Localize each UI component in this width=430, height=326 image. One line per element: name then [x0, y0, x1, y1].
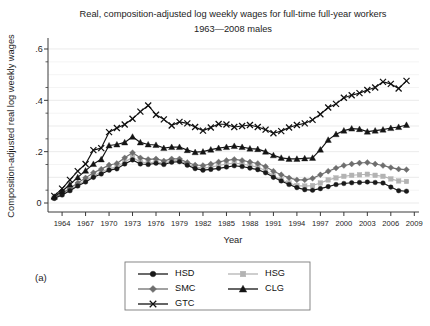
y-tick-label: 0: [36, 198, 41, 208]
data-point-marker-square: [357, 172, 362, 177]
data-point-marker-circle: [342, 181, 347, 186]
data-point-marker-circle: [185, 163, 190, 168]
data-point-marker-diamond: [278, 172, 284, 178]
data-point-marker-x: [325, 105, 331, 111]
data-point-marker-diamond: [325, 168, 331, 174]
data-point-marker-circle: [271, 175, 276, 180]
data-point-marker-x: [169, 122, 175, 128]
data-point-marker-diamond: [404, 167, 410, 173]
data-point-marker-circle: [326, 184, 331, 189]
data-point-marker-circle: [169, 160, 174, 165]
x-tick-label: 2003: [359, 219, 376, 228]
figure-panel: Real, composition-adjusted log weekly wa…: [0, 0, 430, 326]
x-tick-label: 1988: [241, 219, 258, 228]
data-point-marker-x: [396, 86, 402, 92]
data-point-marker-circle: [248, 166, 253, 171]
x-tick-label: 1997: [312, 219, 329, 228]
data-point-marker-square: [326, 178, 331, 183]
data-point-marker-circle: [240, 164, 245, 169]
data-point-marker-diamond: [349, 161, 355, 167]
x-tick-label: 1964: [54, 219, 71, 228]
data-point-marker-circle: [146, 162, 151, 167]
data-point-marker-circle: [295, 185, 300, 190]
x-tick-label: 1985: [218, 219, 235, 228]
data-point-marker-square: [373, 173, 378, 178]
data-point-marker-circle: [396, 188, 401, 193]
data-point-marker-square: [365, 172, 370, 177]
data-point-marker-circle: [177, 159, 182, 164]
data-point-marker-diamond: [286, 175, 292, 181]
data-point-marker-circle: [99, 172, 104, 177]
x-tick-label: 2006: [382, 219, 399, 228]
y-tick-label: .6: [35, 44, 43, 54]
data-point-marker-diamond: [357, 160, 363, 166]
data-point-marker-x: [122, 121, 128, 127]
data-point-marker-diamond: [341, 163, 347, 169]
x-tick-label: 1970: [101, 219, 118, 228]
data-point-marker-circle: [404, 189, 409, 194]
data-point-marker-triangle: [403, 122, 409, 128]
data-point-marker-triangle: [90, 161, 96, 167]
data-point-marker-diamond: [310, 175, 316, 181]
data-point-marker-x: [310, 117, 316, 123]
y-tick-labels: 0.2.4.6: [35, 44, 43, 208]
data-point-marker-circle: [162, 162, 167, 167]
data-point-marker-diamond: [396, 166, 402, 172]
data-point-marker-x: [130, 116, 136, 122]
x-tick-labels: 1964196719701973197619791982198519881991…: [54, 219, 423, 228]
data-point-marker-circle: [334, 182, 339, 187]
data-point-marker-circle: [279, 179, 284, 184]
data-point-marker-circle: [381, 181, 386, 186]
data-point-marker-x: [317, 111, 323, 117]
legend-label-hsg: HSG: [265, 268, 285, 278]
data-point-marker-diamond: [317, 172, 323, 178]
data-point-marker-circle: [357, 180, 362, 185]
data-point-marker-circle: [302, 187, 307, 192]
data-point-marker-x: [208, 125, 214, 131]
data-point-marker-diamond: [380, 163, 386, 169]
data-point-marker-square: [342, 174, 347, 179]
data-point-marker-square: [381, 174, 386, 179]
data-point-marker-circle: [318, 186, 323, 191]
legend-label-hsd: HSD: [175, 268, 195, 278]
data-point-marker-diamond: [388, 165, 394, 171]
data-point-marker-x: [403, 78, 409, 84]
series-gtc: [51, 78, 409, 199]
data-point-marker-x: [341, 95, 347, 101]
data-point-marker-circle: [107, 168, 112, 173]
data-point-marker-x: [192, 124, 198, 130]
x-tick-label: 1994: [288, 219, 305, 228]
data-point-marker-diamond: [294, 177, 300, 183]
axis-lines: [48, 38, 419, 212]
x-tick-label: 1967: [77, 219, 94, 228]
data-point-marker-diamond: [372, 161, 378, 167]
chart-titles: Real, composition-adjusted log weekly wa…: [80, 9, 387, 34]
data-point-marker-circle: [138, 162, 143, 167]
x-tick-label: 1991: [265, 219, 282, 228]
data-point-marker-diamond: [130, 150, 136, 156]
data-point-marker-x: [364, 87, 370, 93]
data-point-marker-circle: [154, 161, 159, 166]
data-point-marker-x: [137, 109, 143, 115]
data-point-marker-square: [404, 179, 409, 184]
x-tick-label: 2009: [406, 219, 423, 228]
data-point-marker-triangle: [98, 156, 104, 162]
data-point-marker-x: [263, 127, 269, 133]
data-point-marker-diamond: [270, 168, 276, 174]
data-point-marker-circle: [365, 180, 370, 185]
data-point-marker-x: [161, 116, 167, 122]
data-point-marker-circle: [373, 180, 378, 185]
data-point-marker-circle: [130, 158, 135, 163]
legend-label-smc: SMC: [175, 283, 196, 293]
data-point-marker-circle: [209, 167, 214, 172]
data-point-marker-circle: [115, 167, 120, 172]
legend-label-clg: CLG: [265, 283, 284, 293]
data-point-marker-circle: [232, 163, 237, 168]
data-point-marker-x: [83, 161, 89, 167]
data-point-marker-x: [286, 125, 292, 131]
legend-label-gtc: GTC: [175, 298, 195, 308]
x-tick-label: 1982: [195, 219, 212, 228]
data-point-marker-x: [145, 102, 151, 108]
data-point-marker-square: [240, 271, 246, 277]
data-point-marker-circle: [216, 166, 221, 171]
